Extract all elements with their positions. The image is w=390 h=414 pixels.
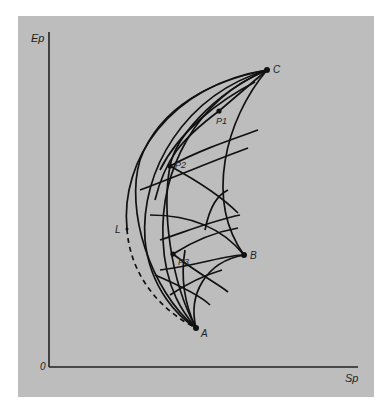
label-c: C: [273, 64, 281, 75]
label-a: A: [200, 328, 208, 339]
point-p1: [216, 108, 221, 113]
curve-c-b: [223, 70, 267, 255]
axes: [49, 32, 358, 367]
x-axis-label: Sp: [345, 372, 358, 384]
origin-label: 0: [40, 361, 46, 372]
label-p3: P3: [178, 257, 189, 267]
label-p2: P2: [175, 160, 186, 170]
point-p3: [170, 251, 175, 256]
feasible-set-diagram: Ep Sp 0 C P1 P2 L P3 B A: [0, 0, 390, 414]
point-b: [241, 252, 247, 258]
portfolio-curves: [126, 70, 267, 328]
label-l: L: [115, 224, 121, 235]
y-axis-label: Ep: [31, 32, 44, 44]
point-a: [193, 325, 199, 331]
curve-b-a: [194, 255, 244, 328]
point-l: [126, 228, 129, 231]
point-p2: [167, 163, 172, 168]
label-b: B: [250, 250, 257, 261]
label-p1: P1: [216, 116, 227, 126]
point-c: [264, 67, 270, 73]
